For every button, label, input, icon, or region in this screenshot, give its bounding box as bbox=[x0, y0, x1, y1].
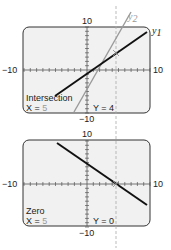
readout-y: Y = 4 bbox=[93, 103, 114, 113]
readout-x: X = 5 bbox=[26, 103, 47, 113]
axis-label-right: 10 bbox=[153, 179, 163, 189]
axis-label-left: −10 bbox=[2, 179, 17, 189]
axis-label-top: 10 bbox=[82, 16, 92, 26]
axis-label-right: 10 bbox=[153, 65, 163, 75]
readout-y: Y = 0 bbox=[93, 216, 114, 226]
axis-label-top: 10 bbox=[82, 129, 92, 139]
calculator-graphs: 10 −10 10 −10 y2 y1 Intersection X = 5 Y… bbox=[0, 0, 171, 250]
readout-title: Intersection bbox=[26, 93, 73, 103]
readout-title: Zero bbox=[26, 206, 45, 216]
axis-label-bottom: −10 bbox=[79, 228, 94, 238]
series-y1-label: y1 bbox=[151, 25, 161, 38]
readout-x: X = 5 bbox=[26, 216, 47, 226]
series-y2-label: y2 bbox=[127, 11, 137, 24]
intersection-graph: 10 −10 10 −10 y2 y1 Intersection X = 5 Y… bbox=[2, 6, 163, 124]
axis-label-bottom: −10 bbox=[79, 114, 94, 124]
axis-label-left: −10 bbox=[2, 65, 17, 75]
zero-graph: 10 −10 10 −10 Zero X = 5 Y = 0 bbox=[2, 126, 163, 248]
